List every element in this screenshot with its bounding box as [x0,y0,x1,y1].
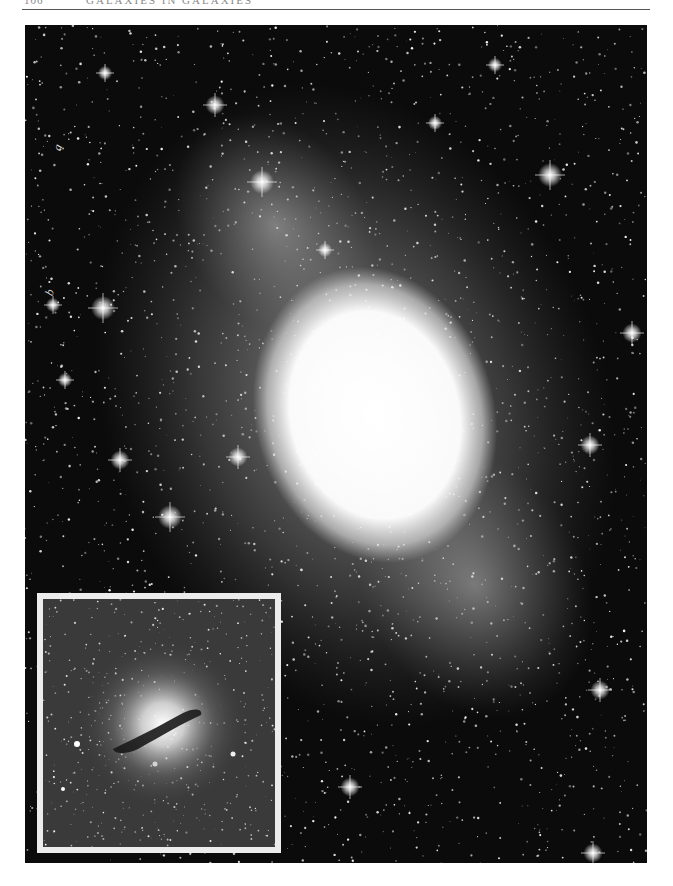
page-header: 106 Galaxies in Galaxies [22,0,650,8]
page-number: 106 [24,0,44,6]
inset-galaxy [43,599,275,847]
header-rule [22,9,650,10]
running-head: Galaxies in Galaxies [86,0,253,6]
inset-image [37,593,281,853]
star-field-plate: a b [25,25,647,863]
